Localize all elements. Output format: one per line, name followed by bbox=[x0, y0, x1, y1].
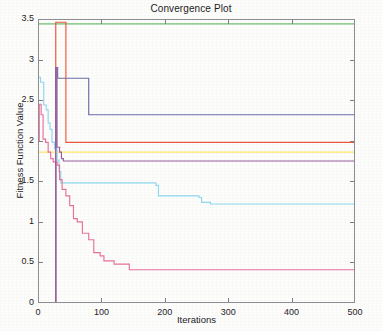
x-tick-label: 300 bbox=[208, 308, 248, 317]
x-tick-label: 100 bbox=[81, 308, 121, 317]
series-line-magenta-curve bbox=[38, 104, 355, 270]
series-line-blue-violet-curve bbox=[38, 68, 355, 303]
x-tick-label: 0 bbox=[18, 308, 58, 317]
plot-area bbox=[38, 19, 355, 303]
x-tick-label: 200 bbox=[145, 308, 185, 317]
series-line-purple-zero-jump-curve bbox=[38, 68, 355, 303]
series-group bbox=[38, 19, 355, 303]
x-tick-label: 500 bbox=[335, 308, 375, 317]
convergence-plot-figure: Convergence Plot Fitness Function Value … bbox=[0, 0, 382, 331]
series-line-cyan-curve bbox=[38, 77, 355, 204]
x-tick-label: 400 bbox=[272, 308, 312, 317]
series-canvas bbox=[38, 19, 355, 303]
series-line-red-curve bbox=[38, 22, 355, 303]
